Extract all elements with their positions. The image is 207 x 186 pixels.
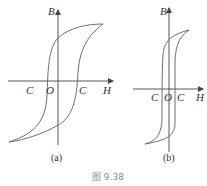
coercive-label-left-a: C: [26, 84, 34, 96]
b-axis-label-a: B: [48, 5, 55, 17]
hysteresis-loop-a: [9, 24, 103, 142]
panel-caption-a: (a): [51, 152, 62, 164]
origin-label-a: O: [46, 84, 54, 96]
coercive-label-right-a: C: [79, 84, 87, 96]
hysteresis-loop-b: [145, 30, 189, 144]
coercive-label-right-b: C: [177, 91, 185, 103]
hysteresis-figure: B H C O C (a) B H C O C (b) 图 9.38: [0, 0, 207, 186]
panel-a: B H C O C (a): [8, 5, 113, 164]
figure-caption: 图 9.38: [92, 172, 124, 182]
panel-caption-b: (b): [163, 152, 175, 164]
coercive-label-left-b: C: [151, 91, 159, 103]
h-axis-label-a: H: [102, 84, 112, 96]
h-axis-label-b: H: [195, 91, 205, 103]
b-axis-label-b: B: [160, 5, 167, 17]
panel-b: B H C O C (b): [133, 5, 205, 164]
origin-label-b: O: [164, 91, 172, 103]
